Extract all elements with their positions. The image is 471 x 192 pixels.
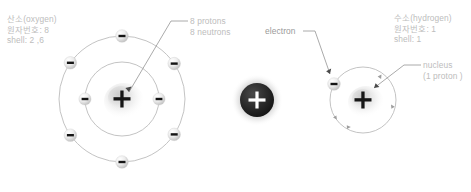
nucleus-text: nucleus (423, 60, 463, 71)
oxygen-name-text: 산소(oxygen) (7, 14, 57, 25)
hydrogen-nucleus (348, 86, 384, 118)
hydrogen-info-label: 수소(hydrogen) 원자번호: 1 shell: 1 (394, 13, 452, 45)
electron-sphere (116, 30, 129, 43)
hydrogen-name-text: 수소(hydrogen) (394, 13, 452, 24)
electron-sphere (168, 128, 181, 141)
oxygen-nucleus (104, 83, 144, 119)
electron-sphere (64, 57, 77, 70)
electron-label: electron (265, 26, 296, 37)
electron-text: electron (265, 26, 296, 37)
oxygen-atom (59, 21, 188, 168)
oxygen-protons-text: 8 protons (190, 16, 231, 27)
electron-leader-line (303, 31, 331, 74)
hydrogen-electron (328, 78, 341, 91)
hydrogen-nucleus-label: nucleus (1 proton ) (423, 60, 463, 81)
oxygen-shell-text: shell: 2 ,6 (7, 35, 57, 46)
oxygen-info-label: 산소(oxygen) 원자번호: 8 shell: 2 ,6 (7, 14, 57, 46)
hydrogen-atom (303, 31, 421, 133)
hydrogen-atomic-number-text: 원자번호: 1 (394, 24, 452, 35)
free-proton-sphere (231, 74, 283, 126)
electron-sphere (64, 129, 77, 142)
electron-sphere (328, 78, 341, 91)
electron-sphere (116, 156, 129, 169)
electron-sphere (153, 93, 165, 105)
nucleus-proton-count-text: (1 proton ) (423, 71, 463, 82)
oxygen-neutrons-text: 8 neutrons (190, 27, 231, 38)
electron-sphere (168, 57, 181, 70)
hydrogen-shell-text: shell: 1 (394, 34, 452, 45)
oxygen-nucleus-leader-line (125, 21, 188, 92)
atom-diagram-canvas: 산소(oxygen) 원자번호: 8 shell: 2 ,6 8 protons… (0, 0, 471, 192)
oxygen-nucleus-label: 8 protons 8 neutrons (190, 16, 231, 37)
oxygen-atomic-number-text: 원자번호: 8 (7, 25, 57, 36)
electron-sphere (79, 93, 91, 105)
